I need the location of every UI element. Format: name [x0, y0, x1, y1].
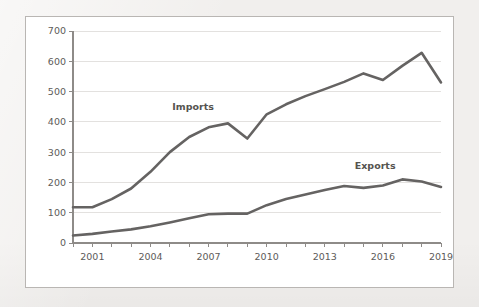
y-tick-label-500: 500 [48, 86, 66, 97]
y-tick-label-600: 600 [48, 56, 66, 67]
y-tick-label-100: 100 [48, 207, 66, 218]
x-tick-label-2004: 2004 [138, 251, 162, 262]
series-line-exports [73, 179, 441, 235]
x-tick-label-2007: 2007 [196, 251, 220, 262]
y-tick-label-200: 200 [48, 177, 66, 188]
x-tick-label-2019: 2019 [429, 251, 453, 262]
x-tick-label-2001: 2001 [80, 251, 104, 262]
y-tick-label-700: 700 [48, 25, 66, 36]
series-label-exports: Exports [355, 160, 396, 171]
y-tick-label-400: 400 [48, 116, 66, 127]
x-tick-label-2013: 2013 [313, 251, 337, 262]
line-chart: 0100200300400500600700200120042007201020… [26, 17, 453, 287]
chart-panel: 0100200300400500600700200120042007201020… [25, 16, 454, 288]
y-tick-label-300: 300 [48, 147, 66, 158]
y-tick-label-0: 0 [60, 237, 66, 248]
series-label-imports: Imports [172, 101, 214, 112]
x-tick-label-2010: 2010 [255, 251, 279, 262]
chart-page: 0100200300400500600700200120042007201020… [0, 0, 479, 307]
x-tick-label-2016: 2016 [371, 251, 395, 262]
